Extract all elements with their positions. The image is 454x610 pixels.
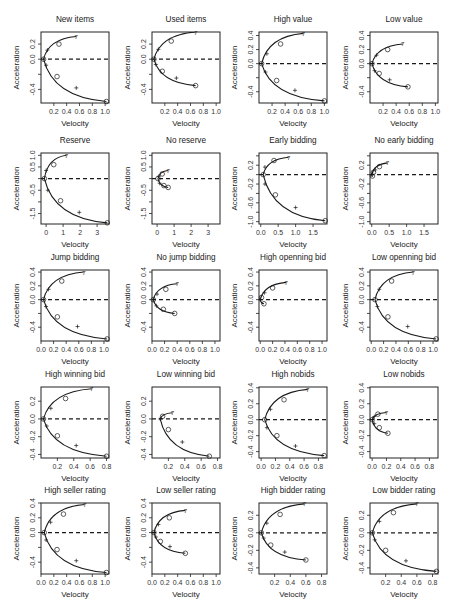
panel-high-openning-bid: High openning bid0.00.20.40.60.81.0-0.40… xyxy=(230,253,327,366)
y-tick-label: -0.4 xyxy=(29,556,36,568)
x-axis-label: Velocity xyxy=(279,474,307,483)
x-tick-label: 2 xyxy=(189,229,193,236)
y-tick-label: 0.2 xyxy=(358,281,365,291)
panel-title: Used items xyxy=(166,15,207,24)
x-tick-label: 1.0 xyxy=(431,108,441,115)
x-axis-label: Velocity xyxy=(172,357,200,366)
x-axis-label: Velocity xyxy=(172,474,200,483)
x-tick-label: 0.0 xyxy=(256,229,266,236)
phase-curve xyxy=(375,272,436,339)
y-tick-label: -0.4 xyxy=(29,448,36,460)
x-tick-label: 0.6 xyxy=(185,346,195,353)
x-axis-label: Velocity xyxy=(172,590,200,599)
x-tick-label: 1.0 xyxy=(211,108,221,115)
x-tick-label: 0.4 xyxy=(285,463,295,470)
x-tick-label: 1 xyxy=(172,229,176,236)
panel-title: High seller rating xyxy=(44,486,106,495)
point-marker xyxy=(58,198,63,203)
y-axis-label: Acceleration xyxy=(12,400,21,444)
x-tick-label: 3 xyxy=(206,229,210,236)
y-tick-label: 0.2 xyxy=(247,160,254,170)
panel-title: Low nobids xyxy=(383,370,424,379)
x-axis-label: Velocity xyxy=(390,357,418,366)
y-tick-label: 0.2 xyxy=(247,281,254,291)
y-tick-label: -0.4 xyxy=(358,445,365,457)
y-tick-label: 0.4 xyxy=(247,383,254,393)
y-tick-label: 0.0 xyxy=(358,295,365,305)
point-marker: 7 xyxy=(386,160,390,166)
point-marker: 7 xyxy=(401,41,405,47)
panel-title: No early bidding xyxy=(374,136,434,145)
plot-frame xyxy=(41,32,109,103)
point-marker xyxy=(383,548,388,553)
x-tick-label: 0.2 xyxy=(271,463,281,470)
panel-title: New items xyxy=(56,15,94,24)
panel-title: High winning bid xyxy=(45,370,106,379)
x-axis-label: Velocity xyxy=(172,119,200,128)
y-axis-label: Acceleration xyxy=(341,400,350,444)
plot-frame xyxy=(370,270,438,341)
x-tick-label: 0.2 xyxy=(381,579,391,586)
point-marker: 7 xyxy=(176,281,180,287)
y-tick-label: -1.5 xyxy=(29,207,36,219)
y-tick-label: 0.4 xyxy=(358,383,365,393)
point-marker xyxy=(164,287,169,292)
x-axis-label: Velocity xyxy=(61,357,89,366)
y-tick-label: -0.4 xyxy=(247,562,254,574)
point-marker xyxy=(59,279,64,284)
x-axis-label: Velocity xyxy=(390,119,418,128)
x-tick-label: 0.2 xyxy=(49,579,59,586)
x-tick-label: 0 xyxy=(44,229,48,236)
y-tick-label: 0.0 xyxy=(140,54,147,64)
y-tick-label: 0.4 xyxy=(247,267,254,277)
x-tick-label: 0.2 xyxy=(379,346,389,353)
panel-title: High bidder rating xyxy=(261,486,326,495)
x-tick-label: 0.0 xyxy=(36,579,46,586)
panel-title: High value xyxy=(274,15,313,24)
panel-no-jump-bidding: No jump bidding0.00.20.40.60.81.0-0.40.0… xyxy=(123,253,220,366)
y-tick-label: -0.2 xyxy=(247,544,254,556)
plot-frame xyxy=(370,387,438,458)
x-tick-label: 1.0 xyxy=(317,346,327,353)
x-tick-label: 0.8 xyxy=(428,579,438,586)
phase-curve xyxy=(44,504,106,572)
x-tick-label: 1.0 xyxy=(99,346,109,353)
point-marker: 7 xyxy=(287,155,291,161)
y-tick-label: 0.2 xyxy=(29,513,36,523)
y-axis-label: Acceleration xyxy=(341,166,350,210)
y-axis-label: Acceleration xyxy=(341,283,350,327)
y-tick-label: -0.5 xyxy=(140,184,147,196)
y-tick-label: -0.4 xyxy=(140,321,147,333)
y-tick-label: -0.4 xyxy=(358,86,365,98)
x-tick-label: 0.8 xyxy=(198,346,208,353)
y-tick-label: 0.2 xyxy=(140,396,147,406)
y-tick-label: -0.4 xyxy=(247,86,254,98)
point-marker xyxy=(274,78,279,83)
panel-new-items: New items0.20.40.60.81.0-0.40.00.2Veloci… xyxy=(12,15,110,128)
x-tick-label: 0.2 xyxy=(268,346,278,353)
point-marker xyxy=(160,414,165,419)
y-tick-label: 0.5 xyxy=(140,162,147,172)
x-tick-label: 0.2 xyxy=(378,108,388,115)
phase-curve xyxy=(263,157,325,220)
plot-frame xyxy=(41,270,109,341)
x-tick-label: 0.0 xyxy=(36,346,46,353)
y-tick-label: 0.2 xyxy=(247,45,254,55)
x-tick-label: 0.4 xyxy=(173,579,183,586)
y-tick-label: -0.4 xyxy=(247,445,254,457)
x-axis-label: Velocity xyxy=(61,119,89,128)
y-tick-label: 0.0 xyxy=(140,414,147,424)
panel-low-nobids: Low nobids0.00.20.40.60.8-0.4-0.20.00.20… xyxy=(341,370,438,483)
y-tick-label: 0.2 xyxy=(29,396,36,406)
x-tick-label: 0.6 xyxy=(292,346,302,353)
y-axis-label: Acceleration xyxy=(341,45,350,89)
y-tick-label: 0.2 xyxy=(358,510,365,520)
panel-title: Reserve xyxy=(60,136,91,145)
point-marker xyxy=(57,42,62,47)
y-tick-label: 0.2 xyxy=(247,510,254,520)
y-axis-label: Acceleration xyxy=(123,166,132,210)
x-tick-label: 1.0 xyxy=(100,579,110,586)
panel-used-items: Used items0.20.40.60.81.0-0.40.00.2Veloc… xyxy=(123,15,221,128)
x-tick-label: 0.0 xyxy=(367,229,377,236)
y-axis-label: Acceleration xyxy=(341,516,350,560)
